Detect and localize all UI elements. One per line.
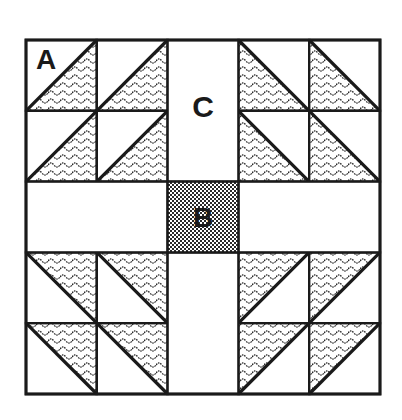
quilt-block-diagram: A B C <box>0 0 402 420</box>
label-c: C <box>192 90 214 123</box>
sashing-left <box>26 182 168 253</box>
half-square-triangle-cell <box>309 111 380 182</box>
half-square-triangle-cell <box>97 323 168 394</box>
half-square-triangle-cell <box>238 111 309 182</box>
label-a: A <box>36 44 56 75</box>
half-square-triangle-cell <box>238 252 309 323</box>
sashing-right <box>238 182 380 253</box>
half-square-triangle-cell <box>26 323 97 394</box>
half-square-triangle-cell <box>97 252 168 323</box>
half-square-triangle-cell <box>26 252 97 323</box>
label-b: B <box>193 202 213 233</box>
half-square-triangle-cell <box>97 111 168 182</box>
half-square-triangle-cell <box>238 40 309 111</box>
half-square-triangle-cell <box>309 252 380 323</box>
half-square-triangle-cell <box>309 40 380 111</box>
half-square-triangle-cell <box>309 323 380 394</box>
sashing-bottom <box>168 252 239 394</box>
half-square-triangle-cell <box>26 111 97 182</box>
half-square-triangle-cell <box>238 323 309 394</box>
half-square-triangle-cell <box>97 40 168 111</box>
